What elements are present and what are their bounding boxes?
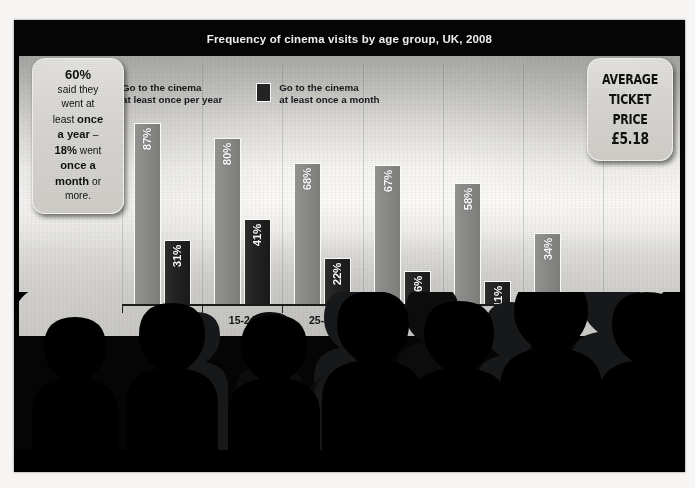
audience-silhouette — [14, 292, 685, 472]
callout-left-line-5: a year – — [39, 127, 117, 143]
callout-right-line-3: PRICE — [600, 109, 659, 129]
bar-value-label: 80% — [221, 143, 233, 165]
bar-value-label: 87% — [141, 128, 153, 150]
legend-line-1: Go to the cinema — [122, 82, 201, 93]
callout-right-line-1: AVERAGE — [600, 69, 659, 89]
callout-left-text: went — [77, 145, 101, 156]
callout-left-line-7: once a — [39, 158, 117, 174]
audience-floor-shadow — [14, 450, 685, 472]
bar-value-label: 67% — [382, 170, 394, 192]
legend-line-2: at least once a month — [279, 94, 379, 105]
photo-frame: Frequency of cinema visits by age group,… — [14, 20, 685, 472]
callout-left-text: or — [89, 176, 101, 187]
legend-line-2: at least once per year — [122, 94, 222, 105]
callout-left-line-3: went at — [39, 97, 117, 112]
bar-group: 58%11% — [443, 58, 523, 304]
audience-front-row — [14, 292, 685, 472]
callout-left-text: – — [90, 129, 99, 140]
legend-label-once-a-month: Go to the cinema at least once a month — [279, 82, 379, 105]
callout-left-emphasis: once — [77, 113, 103, 125]
callout-left-line-8: month or — [39, 174, 117, 190]
bar-value-label: 68% — [301, 168, 313, 190]
callout-box-frequency: 60% said they went at least once a year … — [32, 58, 124, 214]
callout-left-headline: 60% — [39, 68, 117, 83]
bar-light-25-34: 68% — [294, 163, 321, 304]
page-title: Frequency of cinema visits by age group,… — [14, 33, 685, 45]
bar-value-label: 58% — [462, 188, 474, 210]
infographic-page: Frequency of cinema visits by age group,… — [0, 0, 695, 488]
legend-swatch-dark — [256, 83, 271, 102]
bar-light-7-14: 87% — [134, 123, 161, 304]
legend-item-once-a-month: Go to the cinema at least once a month — [256, 82, 379, 105]
callout-box-average-ticket-price: AVERAGE TICKET PRICE £5.18 — [587, 58, 673, 161]
bar-value-label: 34% — [542, 238, 554, 260]
callout-left-line-9: more. — [39, 189, 117, 204]
bar-light-45-54: 58% — [454, 183, 481, 304]
bar-value-label: 22% — [331, 263, 343, 285]
callout-left-emphasis: 18% — [55, 144, 77, 156]
callout-left-emphasis: a year — [58, 128, 90, 140]
legend-label-once-per-year: Go to the cinema at least once per year — [122, 82, 222, 105]
bar-light-15-24: 80% — [214, 138, 241, 304]
callout-right-line-2: TICKET — [600, 89, 659, 109]
audience-svg — [14, 292, 685, 472]
chart-legend: Go to the cinema at least once per year … — [99, 82, 379, 105]
callout-left-text: least — [53, 114, 77, 125]
bar-value-label: 31% — [171, 245, 183, 267]
callout-left-emphasis: once a — [60, 159, 95, 171]
bar-value-label: 41% — [251, 224, 263, 246]
callout-right-price: £5.18 — [600, 129, 659, 149]
callout-left-emphasis: month — [55, 175, 89, 187]
callout-left-line-6: 18% went — [39, 143, 117, 159]
callout-left-line-2: said they — [39, 83, 117, 98]
callout-left-line-4: least once — [39, 112, 117, 128]
bar-light-35-44: 67% — [374, 165, 401, 304]
legend-line-1: Go to the cinema — [279, 82, 358, 93]
